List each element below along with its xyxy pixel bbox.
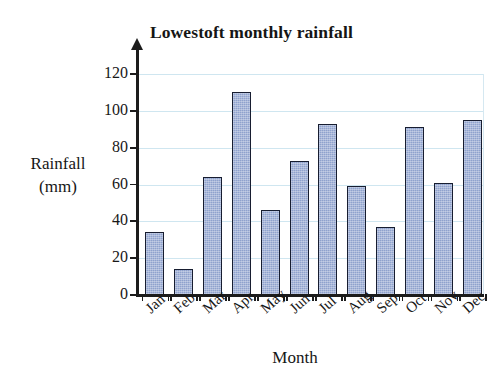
y-tick-label-0: 0 xyxy=(90,286,128,302)
x-tick-may-left xyxy=(257,294,259,301)
x-tick-jan-right xyxy=(168,294,170,301)
y-axis-title-line-1: Rainfall xyxy=(6,152,110,175)
y-tick-0 xyxy=(130,294,139,296)
x-tick-jun-right xyxy=(312,294,314,301)
bar-oct xyxy=(405,127,424,295)
bar-apr xyxy=(232,92,251,295)
rainfall-bar-chart: Lowestoft monthly rainfall 0204060801001… xyxy=(0,0,497,382)
gridline-100 xyxy=(138,111,484,112)
y-tick-120 xyxy=(130,73,139,75)
plot-right-edge xyxy=(483,74,484,295)
gridline-80 xyxy=(138,148,484,149)
y-axis-title-line-2: (mm) xyxy=(6,175,110,198)
chart-title: Lowestoft monthly rainfall xyxy=(150,22,490,43)
y-tick-label-120: 120 xyxy=(90,65,128,81)
y-axis-arrow-icon xyxy=(131,38,143,50)
x-axis-title: Month xyxy=(200,348,390,368)
x-tick-label-jul: Jul xyxy=(316,293,339,316)
bar-aug xyxy=(347,186,366,295)
gridline-40 xyxy=(138,221,484,222)
bar-dec xyxy=(463,120,482,295)
x-tick-jul-right xyxy=(341,294,343,301)
bar-jun xyxy=(290,161,309,295)
bar-sep xyxy=(376,227,395,295)
gridline-20 xyxy=(138,258,484,259)
bar-mar xyxy=(203,177,222,295)
bar-nov xyxy=(434,183,453,295)
y-tick-label-40: 40 xyxy=(90,212,128,228)
y-tick-100 xyxy=(130,110,139,112)
x-tick-apr-left xyxy=(228,294,230,301)
bar-jul xyxy=(318,124,337,295)
x-tick-feb-left xyxy=(170,294,172,301)
gridline-120 xyxy=(138,74,484,75)
y-tick-40 xyxy=(130,220,139,222)
plot-area xyxy=(138,74,484,295)
y-tick-label-20: 20 xyxy=(90,249,128,265)
y-tick-20 xyxy=(130,257,139,259)
x-tick-nov-left xyxy=(431,294,433,301)
x-tick-aug-left xyxy=(344,294,346,301)
y-tick-label-100: 100 xyxy=(90,102,128,118)
y-axis-title: Rainfall (mm) xyxy=(6,152,110,198)
x-tick-jan-left xyxy=(142,294,144,301)
bar-may xyxy=(261,210,280,295)
gridline-60 xyxy=(138,185,484,186)
x-tick-oct-left xyxy=(402,294,404,301)
y-tick-60 xyxy=(130,184,139,186)
x-tick-jul-left xyxy=(315,294,317,301)
bar-jan xyxy=(145,232,164,295)
x-tick-mar-left xyxy=(199,294,201,301)
y-tick-80 xyxy=(130,147,139,149)
